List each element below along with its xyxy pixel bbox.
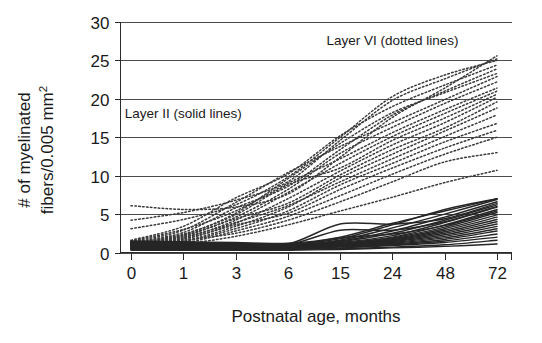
x-tick-label-24: 24 [383,264,402,283]
y-axis-title-line2: fibers/0.005 mm [38,92,57,214]
annotation-layer-ii: Layer II (solid lines) [125,106,242,121]
x-tick-label-6: 6 [284,264,293,283]
chart-background [0,0,542,343]
x-tick-label-48: 48 [436,264,455,283]
myelinated-fibers-chart: 051015202530 013615244872 Layer VI (dott… [0,0,542,343]
x-tick-label-1: 1 [179,264,188,283]
x-tick-label-3: 3 [232,264,241,283]
y-tick-label-20: 20 [91,91,110,110]
x-tick-label-72: 72 [488,264,507,283]
x-tick-label-15: 15 [331,264,350,283]
y-tick-label-5: 5 [100,206,109,225]
y-tick-label-10: 10 [91,168,110,187]
y-axis-title-superscript: 2 [37,86,49,92]
y-axis-title-line1: # of myelinated [15,92,34,207]
x-tick-label-0: 0 [127,264,136,283]
annotation-layer-vi: Layer VI (dotted lines) [326,33,458,48]
x-axis-title: Postnatal age, months [231,307,400,326]
y-tick-label-30: 30 [91,14,110,33]
svg-text:fibers/0.005 mm2: fibers/0.005 mm2 [37,86,57,214]
y-tick-label-25: 25 [91,52,110,71]
y-tick-label-15: 15 [91,129,110,148]
y-tick-label-0: 0 [100,245,109,264]
